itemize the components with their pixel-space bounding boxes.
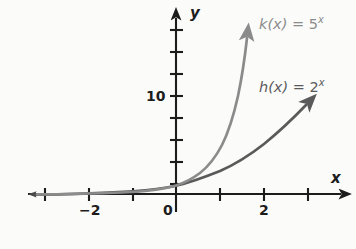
curve-annotation-h-function: h(x) [259, 79, 288, 95]
curve-annotation-k-equals: = [292, 16, 304, 32]
curve-h-2-power-x [33, 105, 306, 195]
curve-k-5-power-x [37, 38, 247, 194]
x-tick-label-2: 2 [259, 203, 269, 217]
curve-annotation-k-function: k(x) [259, 16, 287, 32]
curve-annotation-h-equals: = [293, 79, 305, 95]
y-axis-label: y [190, 6, 200, 21]
plot-canvas [0, 0, 356, 249]
exponential-functions-graph: y x 0 −2 2 10 k(x) = 5x h(x) = 2x [0, 0, 356, 249]
y-tick-label-10: 10 [146, 89, 165, 103]
curve-annotation-h-exponent: x [319, 77, 325, 88]
curve-annotation-k-exponent: x [318, 14, 324, 25]
curve-annotation-h-base: 2 [309, 79, 318, 95]
curve-annotation-k-base: 5 [309, 16, 318, 32]
x-tick-label--2: −2 [79, 203, 100, 217]
curve-path-k [37, 38, 247, 194]
x-axis-label: x [331, 171, 341, 186]
curve-annotation-h: h(x) = 2x [259, 80, 325, 95]
origin-tick-label: 0 [163, 203, 173, 217]
curve-annotation-k: k(x) = 5x [259, 17, 324, 32]
curve-path-h [33, 105, 306, 195]
